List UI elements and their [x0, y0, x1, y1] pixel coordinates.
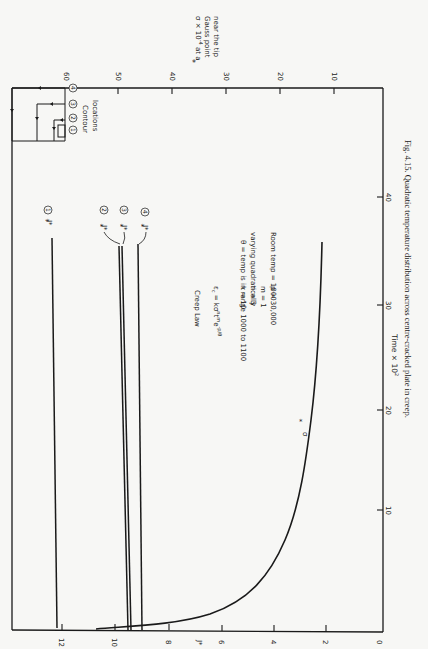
- sigma-tick-30: 30: [222, 72, 230, 81]
- sigma-axis-label-line3: near the tip: [212, 16, 220, 58]
- sigma-tick-20: 20: [276, 72, 284, 81]
- figure-caption: Fig. 4.15. Quadratic temperature distrib…: [403, 140, 413, 418]
- creep-law-equation: εc = kσntme-p/θ: [211, 286, 223, 336]
- j-tick-2: 2: [321, 640, 329, 644]
- plot-frame: [12, 88, 383, 632]
- j-tick-4: 4: [269, 640, 277, 645]
- contour-circled-labels: [69, 84, 77, 134]
- creep-theta-line1: θ = temp is in range 1000 to 1100: [239, 240, 247, 361]
- sigma-tick-10: 10: [330, 72, 338, 81]
- j3-star: *: [120, 223, 124, 231]
- time-tick-30: 30: [384, 301, 392, 310]
- sigma-tick-60: 60: [62, 72, 70, 81]
- j4-star: *: [141, 223, 145, 231]
- sigma-axis-ticks: [118, 88, 334, 94]
- chart-svg: 12 10 8 6 4 2 0 J* 10 20 30 40 Time × 10…: [0, 0, 428, 649]
- figure-page: 12 10 8 6 4 2 0 J* 10 20 30 40 Time × 10…: [0, 0, 428, 649]
- j4-circled: 4: [142, 210, 149, 214]
- j-series-1: [52, 238, 57, 628]
- j-axis-labels: 12 10 8 6 4 2 0: [57, 638, 383, 647]
- j-tick-10: 10: [110, 638, 118, 647]
- sigma-axis-title: * σ × 10-4 at a Gauss point near the tip: [192, 16, 220, 68]
- time-tick-10: 10: [384, 506, 392, 515]
- j-tick-6: 6: [217, 640, 225, 645]
- creep-theta-line2: varying quadratically: [249, 232, 257, 306]
- creep-law-annotation: Creep Law εc = kσntme-p/θ k = 10 n = 3 m…: [193, 232, 277, 361]
- sigma-curve-star: *: [299, 418, 303, 426]
- time-tick-40: 40: [384, 193, 392, 202]
- time-tick-20: 20: [384, 406, 392, 415]
- j-series-4: [138, 244, 142, 630]
- contour-diagram: [12, 88, 65, 141]
- sigma-tick-50: 50: [114, 72, 122, 81]
- time-axis-ticks: [377, 197, 383, 510]
- time-axis-label: Time × 102: [390, 333, 400, 376]
- contour-3: 3: [70, 102, 77, 106]
- creep-room-temp: Room temp = 1000: [269, 232, 277, 301]
- contour-label-line1: Contour: [81, 105, 89, 133]
- contour-2: 2: [70, 116, 77, 120]
- j-axis-title: J*: [195, 639, 203, 646]
- sigma-curve-label: σ: [301, 432, 309, 437]
- sigma-axis-labels: 60 50 40 30 20 10: [62, 72, 338, 81]
- j-tick-12: 12: [57, 638, 65, 647]
- j-axis-label: J*: [195, 639, 203, 646]
- sigma-axis-label-line1: σ × 10-4 at a: [194, 16, 204, 60]
- creep-law-title: Creep Law: [193, 290, 201, 327]
- j2-star: *: [100, 223, 104, 231]
- sigma-tick-40: 40: [168, 72, 176, 81]
- j-tick-8: 8: [164, 640, 172, 644]
- j1-circled: 1: [45, 208, 52, 212]
- contour-label-line2: locations: [91, 100, 99, 132]
- j2-circled: 2: [101, 208, 108, 212]
- j1-star: *: [46, 218, 50, 226]
- contour-1: 1: [70, 128, 77, 132]
- j-tick-0: 0: [375, 640, 383, 644]
- contour-4: 4: [70, 86, 77, 90]
- j3-circled: 3: [121, 208, 128, 212]
- creep-m: m = 1: [259, 286, 267, 308]
- sigma-axis-label-line2: Gauss point: [203, 16, 211, 58]
- j-series: [52, 238, 142, 630]
- time-axis-title: Time × 102: [390, 333, 400, 376]
